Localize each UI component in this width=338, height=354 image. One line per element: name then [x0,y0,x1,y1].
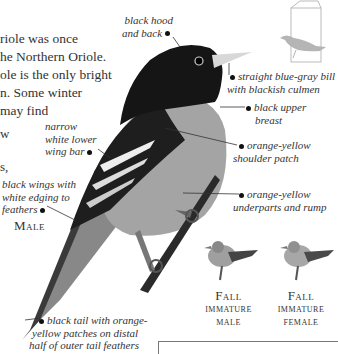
label-text: Fall [271,289,331,302]
annotation-text: feathers [2,203,37,215]
leader-dot-icon [87,150,92,155]
annotation-tail: black tail with orange- yellow patches o… [36,314,148,352]
annotation-line: white lower [45,133,97,146]
annotation-line: wing bar [45,145,97,158]
annotation-line: black tail with orange- [36,314,148,327]
leader-dot-icon [230,75,235,80]
info-box-edge [158,341,338,354]
annotation-line: shoulder patch [233,152,311,165]
annotation-line: and back [122,27,173,40]
annotation-line: straight blue-gray bill [227,70,335,83]
annotation-wings: black wings with white edging to feather… [2,178,76,216]
annotation-text: wing bar [45,145,84,157]
leader-dot-icon [40,208,45,213]
leader-dot-icon [39,319,44,324]
annotation-text: straight blue-gray bill [238,70,335,82]
annotation-line: black hood [122,14,173,27]
leader-dot-icon [165,31,170,36]
annotation-bill: straight blue-gray bill with blackish cu… [227,70,335,95]
annotation-upper-breast: black upper breast [243,101,306,126]
leader-dot-icon [239,144,244,149]
annotation-underparts: orange-yellow underparts and rump [236,188,327,213]
leader-dot-icon [246,106,251,111]
label-text: immature [271,302,331,315]
annotation-line: with blackish culmen [227,83,335,96]
annotation-text: orange-yellow [247,139,311,151]
annotation-text: orange-yellow [247,188,311,200]
annotation-shoulder-patch: orange-yellow shoulder patch [236,139,311,164]
annotation-text: black tail with orange- [47,314,148,326]
label-text: Fall [201,289,256,302]
annotation-line: black wings with [2,178,76,191]
annotation-line: yellow patches on distal [32,327,148,340]
annotation-wing-bar: narrow white lower wing bar [45,120,97,158]
label-text: male [201,315,256,328]
annotation-line: half of outer tail feathers [29,339,148,352]
label-fall-immature-male: Fall immature male [201,289,256,328]
annotation-text: black upper [254,101,306,113]
label-fall-immature-female: Fall immature female [271,289,331,328]
annotation-line: breast [243,114,306,127]
label-male: Male [14,219,45,233]
annotation-text: and back [122,27,162,39]
bird-in-book-icon [280,1,326,62]
annotation-line: black upper [243,101,306,114]
annotation-line: narrow [45,120,97,133]
fall-immature-female-illustration [280,241,334,280]
annotation-black-hood: black hood and back [122,14,173,39]
label-text: Male [14,218,45,233]
annotation-line: orange-yellow [236,188,327,201]
label-text: female [271,315,331,328]
annotation-line: orange-yellow [236,139,311,152]
label-text: immature [201,302,256,315]
annotation-line: white edging to [2,191,76,204]
annotation-line: feathers [2,203,76,216]
fall-immature-male-illustration [204,241,258,280]
leader-dot-icon [239,193,244,198]
annotation-line: underparts and rump [233,201,327,214]
